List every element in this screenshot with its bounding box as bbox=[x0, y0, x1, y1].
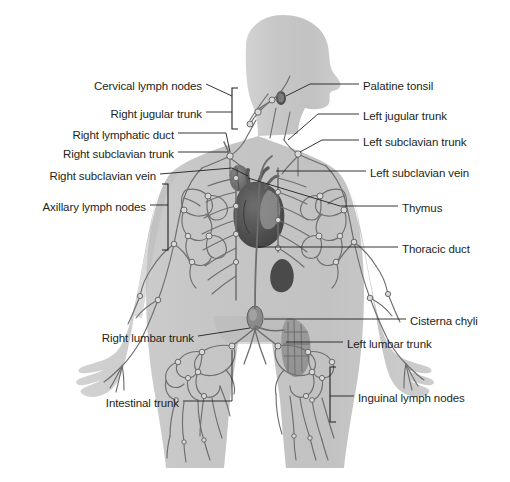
label-left-jugular-trunk: Left jugular trunk bbox=[363, 110, 447, 123]
label-right-jugular-trunk: Right jugular trunk bbox=[88, 108, 202, 121]
label-thymus: Thymus bbox=[402, 202, 442, 215]
label-inguinal-lymph-nodes: Inguinal lymph nodes bbox=[358, 392, 465, 405]
label-cisterna-chyli: Cisterna chyli bbox=[410, 315, 478, 328]
label-thoracic-duct: Thoracic duct bbox=[402, 243, 470, 256]
leader-left-subclavian-trunk-2 bbox=[300, 140, 322, 152]
label-left-subclavian-trunk: Left subclavian trunk bbox=[363, 136, 466, 149]
lymphatic-system-diagram bbox=[0, 0, 510, 482]
label-cervical-lymph-nodes: Cervical lymph nodes bbox=[78, 80, 202, 93]
cervical-bracket bbox=[232, 88, 238, 129]
label-right-lumbar-trunk: Right lumbar trunk bbox=[78, 332, 194, 345]
label-axillary-lymph-nodes: Axillary lymph nodes bbox=[18, 201, 146, 214]
leader-cervical-lymph-nodes bbox=[206, 84, 232, 96]
label-left-lumbar-trunk: Left lumbar trunk bbox=[347, 338, 432, 351]
label-left-subclavian-vein: Left subclavian vein bbox=[370, 167, 469, 180]
label-palatine-tonsil: Palatine tonsil bbox=[363, 80, 433, 93]
label-right-lymphatic-duct: Right lymphatic duct bbox=[50, 129, 174, 142]
label-intestinal-trunk: Intestinal trunk bbox=[85, 397, 179, 410]
label-right-subclavian-trunk: Right subclavian trunk bbox=[36, 148, 174, 161]
label-right-subclavian-vein: Right subclavian vein bbox=[20, 170, 156, 183]
